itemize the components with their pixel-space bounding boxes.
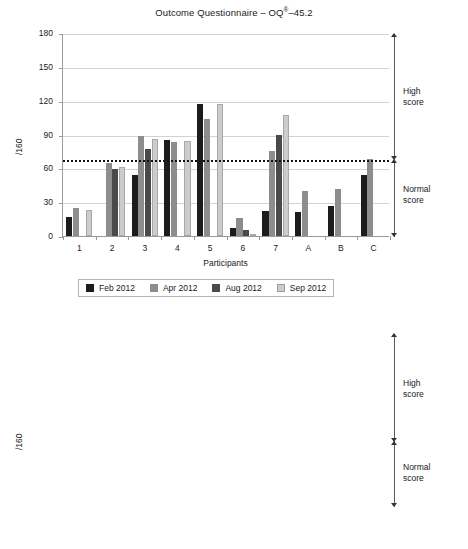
bar bbox=[138, 136, 144, 236]
legend-swatch-icon bbox=[86, 284, 94, 292]
bar-score-range-arrows bbox=[390, 34, 399, 237]
x-axis-tick-label: 6 bbox=[227, 243, 259, 253]
legend-label: Aug 2012 bbox=[225, 283, 261, 293]
bar bbox=[184, 141, 190, 236]
bar-high-score-line2: score bbox=[403, 97, 424, 108]
bar bbox=[269, 151, 275, 236]
range-arrow-line bbox=[394, 334, 395, 442]
y-axis-tick-label: 60 bbox=[27, 163, 53, 173]
bar-normal-score-line1: Normal bbox=[403, 184, 430, 195]
line-score-range-arrows bbox=[390, 334, 399, 507]
x-axis-tick-label: A bbox=[292, 243, 324, 253]
arrow-head-up-icon bbox=[391, 441, 397, 445]
range-arrow-line bbox=[394, 34, 395, 160]
bar-normal-score-line2: score bbox=[403, 195, 430, 206]
bar-x-axis-label: Participants bbox=[62, 258, 389, 268]
bar bbox=[295, 212, 301, 236]
y-axis-tick bbox=[59, 34, 63, 35]
bar-y-axis-label: /160 bbox=[14, 138, 24, 155]
line-high-score-line2: score bbox=[403, 389, 424, 400]
y-axis-tick bbox=[59, 203, 63, 204]
x-axis-tick bbox=[325, 236, 326, 240]
bar bbox=[132, 175, 138, 236]
bar bbox=[119, 167, 125, 236]
legend-swatch-icon bbox=[150, 284, 158, 292]
y-axis-tick-label: 30 bbox=[27, 197, 53, 207]
y-axis-tick bbox=[59, 136, 63, 137]
bar bbox=[73, 208, 79, 236]
legend-label: Sep 2012 bbox=[290, 283, 326, 293]
legend-swatch-icon bbox=[212, 284, 220, 292]
legend-item[interactable]: Apr 2012 bbox=[150, 283, 198, 293]
legend-item[interactable]: Sep 2012 bbox=[277, 283, 326, 293]
line-high-score-line1: High bbox=[403, 378, 424, 389]
bar bbox=[197, 104, 203, 236]
range-arrow-line bbox=[394, 160, 395, 237]
y-axis-tick-label: 120 bbox=[27, 96, 53, 106]
legend-swatch-icon bbox=[277, 284, 285, 292]
chart-title-tail: –45.2 bbox=[288, 7, 312, 18]
y-axis-tick-label: 150 bbox=[27, 62, 53, 72]
y-axis-tick-label: 180 bbox=[27, 28, 53, 38]
bar-high-score-line1: High bbox=[403, 86, 424, 97]
x-axis-tick bbox=[292, 236, 293, 240]
x-axis-tick-label: C bbox=[358, 243, 390, 253]
bar-plot-area: 03060901201501801234567ABC bbox=[62, 34, 389, 237]
arrow-head-up-icon bbox=[391, 33, 397, 37]
arrow-head-down-icon bbox=[391, 233, 397, 237]
y-axis-tick-label: 0 bbox=[27, 231, 53, 241]
gridline bbox=[63, 136, 389, 137]
x-axis-tick bbox=[96, 236, 97, 240]
line-normal-score-line1: Normal bbox=[403, 462, 430, 473]
bar bbox=[204, 119, 210, 236]
x-axis-tick bbox=[227, 236, 228, 240]
x-axis-tick-label: 5 bbox=[194, 243, 226, 253]
line-normal-score-note: Normal score bbox=[403, 462, 430, 484]
x-axis-tick-label: 3 bbox=[129, 243, 161, 253]
x-axis-tick bbox=[63, 236, 64, 240]
bar bbox=[276, 135, 282, 237]
clinical-cutoff-line bbox=[63, 160, 389, 162]
legend-label: Feb 2012 bbox=[99, 283, 135, 293]
bar bbox=[230, 228, 236, 236]
x-axis-tick-label: 2 bbox=[96, 243, 128, 253]
line-y-axis-label: /160 bbox=[14, 433, 24, 450]
x-axis-tick bbox=[128, 236, 129, 240]
line-normal-score-line2: score bbox=[403, 473, 430, 484]
legend-label: Apr 2012 bbox=[163, 283, 198, 293]
bar-high-score-note: High score bbox=[403, 86, 424, 108]
bar bbox=[152, 139, 158, 236]
legend-item[interactable]: Feb 2012 bbox=[86, 283, 135, 293]
bar bbox=[361, 175, 367, 236]
bar-chart-legend: Feb 2012Apr 2012Aug 2012Sep 2012 bbox=[78, 279, 334, 297]
bar bbox=[262, 211, 268, 236]
bar bbox=[86, 210, 92, 236]
gridline bbox=[63, 34, 389, 35]
bar bbox=[367, 159, 373, 236]
legend-item[interactable]: Aug 2012 bbox=[212, 283, 261, 293]
x-axis-tick bbox=[161, 236, 162, 240]
x-axis-tick bbox=[357, 236, 358, 240]
gridline bbox=[63, 102, 389, 103]
bar bbox=[171, 142, 177, 236]
bar bbox=[243, 230, 249, 236]
arrow-head-up-icon bbox=[391, 333, 397, 337]
page-title: Outcome Questionnaire – OQ®–45.2 bbox=[0, 6, 468, 18]
bar bbox=[335, 189, 341, 236]
gridline bbox=[63, 68, 389, 69]
bar-chart: Outcome Questionnaire – OQ®–45.2 /160 03… bbox=[0, 0, 468, 305]
bar bbox=[66, 217, 72, 236]
x-axis-tick-label: 1 bbox=[63, 243, 95, 253]
x-axis-tick bbox=[194, 236, 195, 240]
arrow-head-up-icon bbox=[391, 159, 397, 163]
bar bbox=[236, 218, 242, 236]
bar bbox=[112, 169, 118, 236]
bar bbox=[164, 140, 170, 236]
y-axis-tick bbox=[59, 102, 63, 103]
bar bbox=[283, 115, 289, 236]
y-axis-tick bbox=[59, 68, 63, 69]
x-axis-tick-label: 4 bbox=[161, 243, 193, 253]
range-arrow-line bbox=[394, 442, 395, 507]
bar bbox=[328, 206, 334, 236]
x-axis-tick bbox=[259, 236, 260, 240]
